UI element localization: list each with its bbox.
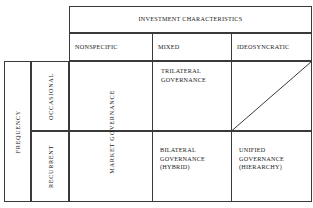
column-header-ideosyncratic: IDEOSYNCRATIC	[231, 33, 312, 61]
row-header-occasional-label: OCCASIONAL	[47, 73, 54, 120]
cell-unified-governance-label: UNIFIED GOVERNANCE (HIERARCHY)	[232, 132, 284, 172]
axis-label-frequency-text: FREQUENCY	[14, 110, 21, 153]
cell-ideosyncratic-occasional	[231, 61, 312, 131]
column-header-ideosyncratic-label: IDEOSYNCRATIC	[232, 43, 289, 52]
cell-bilateral-governance: BILATERAL GOVERNANCE (HYBRID)	[152, 131, 232, 202]
cell-nonspecific-occasional	[69, 61, 153, 131]
column-header-mixed: MIXED	[152, 33, 232, 61]
row-header-recurrent-label: RECURRENT	[47, 145, 54, 188]
axis-label-frequency: FREQUENCY	[4, 61, 31, 202]
investment-characteristics-header: INVESTMENT CHARACTERISTICS	[69, 6, 312, 33]
column-header-mixed-label: MIXED	[153, 43, 180, 52]
cell-unified-governance: UNIFIED GOVERNANCE (HIERARCHY)	[231, 131, 312, 202]
column-header-nonspecific: NONSPECIFIC	[69, 33, 153, 61]
cell-trilateral-governance-label: TRILATERAL GOVERNANCE	[153, 62, 231, 84]
cell-bilateral-governance-label: BILATERAL GOVERNANCE (HYBRID)	[153, 132, 205, 172]
cell-trilateral-governance: TRILATERAL GOVERNANCE	[152, 61, 232, 131]
column-header-nonspecific-label: NONSPECIFIC	[70, 43, 118, 52]
governance-structures-matrix: INVESTMENT CHARACTERISTICS NONSPECIFIC M…	[0, 0, 313, 208]
investment-characteristics-title: INVESTMENT CHARACTERISTICS	[139, 15, 243, 24]
row-header-recurrent: RECURRENT	[31, 131, 69, 202]
cell-nonspecific-recurrent	[69, 131, 153, 202]
row-header-occasional: OCCASIONAL	[31, 61, 69, 131]
